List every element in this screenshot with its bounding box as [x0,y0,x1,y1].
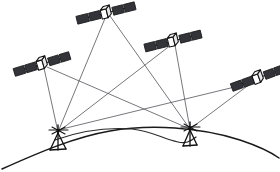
station-left-leg-2 [58,133,66,149]
signal-link-sat2-stationA [44,68,58,132]
satellite-left-panel-right [48,52,71,66]
station-left-base-bar [50,149,66,150]
station-left-hub [56,129,59,132]
satellite-top-body [99,5,112,19]
satellite-far-right-panel-right [263,65,280,79]
station-right-hub [188,126,191,129]
earth-surface-arc [2,127,279,169]
signal-link-group [44,16,250,132]
station-right-leg-1 [183,130,190,146]
satellite-right-upper-body [166,33,179,47]
satellite-top[interactable] [75,0,136,25]
signal-link-sat3-stationB [175,45,190,129]
geoid-undulation-arc [55,128,196,142]
satellite-far-right[interactable] [229,62,280,92]
satellite-top-panel-left [76,11,101,25]
satellite-right-upper-panel-right [179,30,202,43]
satellite-right-upper[interactable] [143,27,202,53]
station-right-base-bar [183,145,197,146]
signal-link-sat2-stationB [47,67,190,129]
signal-link-sat1-stationA [58,16,106,132]
signal-link-sat3-stationA [58,45,171,132]
ground-station-left[interactable] [49,125,68,150]
signal-link-sat4-stationA [58,84,247,130]
diagram-canvas [0,0,280,172]
satellite-ground-station-diagram [0,0,280,172]
earth-group [2,127,279,169]
satellite-left[interactable] [12,49,71,77]
